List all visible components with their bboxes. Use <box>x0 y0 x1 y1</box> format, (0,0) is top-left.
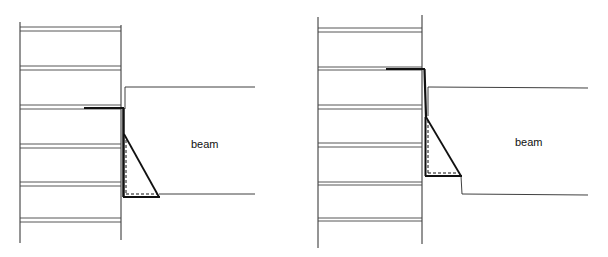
right-column-floor-lines <box>318 28 422 221</box>
right-beam-outline <box>428 87 588 195</box>
left-beam-label: beam <box>191 138 219 150</box>
right-seat-angle <box>386 69 462 176</box>
right-beam-label: beam <box>515 136 543 148</box>
left-seat-angle <box>84 108 160 197</box>
diagram-canvas: beam beam <box>0 0 608 257</box>
left-column-floor-lines <box>20 27 121 222</box>
left-beam-outline <box>125 87 255 194</box>
right-connection-diagram: beam <box>318 15 588 248</box>
left-connection-diagram: beam <box>20 22 255 243</box>
